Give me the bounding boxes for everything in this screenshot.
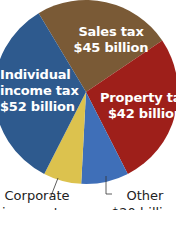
property-tax-label: Property tax $42 billion bbox=[100, 90, 176, 122]
individual-income-tax-value: $52 billion bbox=[0, 99, 70, 115]
other-name: Other bbox=[108, 187, 176, 204]
other-value: $20 billion bbox=[108, 204, 176, 210]
individual-income-tax-name-2: income tax bbox=[0, 83, 70, 99]
sales-tax-name: Sales tax bbox=[71, 24, 151, 40]
individual-income-tax-label: Individual income tax $52 billion bbox=[0, 67, 70, 115]
corporate-income-tax-name-1: Corporate bbox=[2, 187, 72, 204]
property-tax-name: Property tax bbox=[100, 90, 176, 106]
sales-tax-value: $45 billion bbox=[71, 40, 151, 56]
other-label: Other $20 billion bbox=[108, 187, 176, 210]
corporate-income-tax-label: Corporate income tax bbox=[2, 187, 72, 210]
sales-tax-label: Sales tax $45 billion bbox=[71, 24, 151, 56]
individual-income-tax-name-1: Individual bbox=[0, 67, 70, 83]
corporate-income-tax-name-2: income tax bbox=[2, 204, 72, 210]
property-tax-value: $42 billion bbox=[100, 106, 176, 122]
